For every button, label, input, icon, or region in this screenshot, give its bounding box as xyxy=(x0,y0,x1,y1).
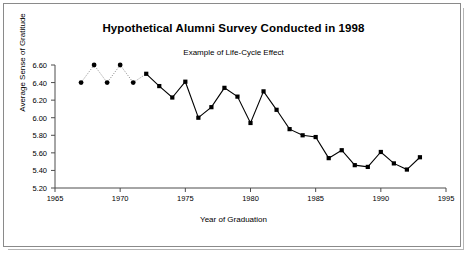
x-tick-label: 1995 xyxy=(426,194,466,203)
data-point-marker xyxy=(248,121,252,125)
data-point-marker xyxy=(196,116,200,120)
y-tick-label: 5.80 xyxy=(13,131,47,140)
x-tick-label: 1975 xyxy=(165,194,205,203)
y-tick-label: 5.60 xyxy=(13,148,47,157)
data-point-marker xyxy=(392,161,396,165)
y-tick-label: 6.20 xyxy=(13,96,47,105)
data-point-marker xyxy=(222,86,226,90)
plot-area: Average Sense of Gratitude Year of Gradu… xyxy=(0,0,467,253)
data-point-marker xyxy=(183,80,187,84)
data-point-marker xyxy=(366,165,370,169)
data-point-marker xyxy=(327,156,331,160)
y-tick-label: 6.00 xyxy=(13,113,47,122)
x-axis-title: Year of Graduation xyxy=(0,215,467,224)
data-point-marker xyxy=(301,133,305,137)
y-tick-label: 6.60 xyxy=(13,61,47,70)
y-tick-label: 5.40 xyxy=(13,166,47,175)
data-point-marker xyxy=(379,150,383,154)
data-point-marker xyxy=(105,80,110,85)
data-point-marker xyxy=(418,155,422,159)
data-point-marker xyxy=(118,63,123,68)
data-point-marker xyxy=(92,63,97,68)
data-point-marker xyxy=(353,163,357,167)
data-point-marker xyxy=(209,105,213,109)
data-point-marker xyxy=(131,80,136,85)
x-tick-label: 1980 xyxy=(231,194,271,203)
data-point-marker xyxy=(79,80,84,85)
data-point-marker xyxy=(340,148,344,152)
x-tick-label: 1970 xyxy=(100,194,140,203)
data-point-marker xyxy=(288,127,292,131)
data-point-marker xyxy=(274,108,278,112)
x-tick-label: 1990 xyxy=(361,194,401,203)
y-tick-label: 6.40 xyxy=(13,78,47,87)
data-point-marker xyxy=(235,95,239,99)
x-tick-label: 1985 xyxy=(296,194,336,203)
data-point-marker xyxy=(261,89,265,93)
y-tick-label: 5.20 xyxy=(13,184,47,193)
x-tick-label: 1965 xyxy=(35,194,75,203)
data-point-marker xyxy=(314,135,318,139)
data-point-marker xyxy=(157,84,161,88)
series-line-solid xyxy=(146,74,420,170)
data-point-marker xyxy=(144,72,148,76)
series-line-dotted xyxy=(81,65,133,83)
data-point-marker xyxy=(405,167,409,171)
data-point-marker xyxy=(170,95,174,99)
